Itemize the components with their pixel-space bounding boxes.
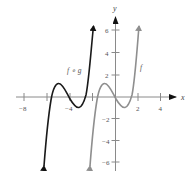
y-tick-label-neg4: −4 bbox=[102, 138, 110, 146]
x-tick-label-neg4: −4 bbox=[65, 105, 73, 113]
curve-label-f-compose-g: f ∘ g bbox=[67, 66, 82, 75]
y-tick-label-2: 2 bbox=[105, 72, 109, 80]
curve-f bbox=[90, 26, 139, 166]
x-tick-label-neg8: −8 bbox=[19, 105, 27, 113]
x-tick-label-2: 2 bbox=[136, 105, 140, 113]
y-tick-label-neg2: −2 bbox=[102, 116, 110, 124]
curve-label-f: f bbox=[140, 63, 143, 72]
x-axis-label: x bbox=[180, 93, 185, 102]
x-tick-label-4: 4 bbox=[159, 105, 163, 113]
y-axis-label: y bbox=[112, 4, 117, 13]
plot-area: x y −8 −4 2 4 6 4 2 −2 −4 −6 f ∘ g f bbox=[0, 0, 189, 178]
curve-f-compose-g bbox=[44, 26, 94, 166]
y-tick-label-4: 4 bbox=[105, 50, 109, 58]
y-tick-label-neg6: −6 bbox=[102, 159, 110, 167]
y-tick-label-6: 6 bbox=[105, 27, 109, 35]
